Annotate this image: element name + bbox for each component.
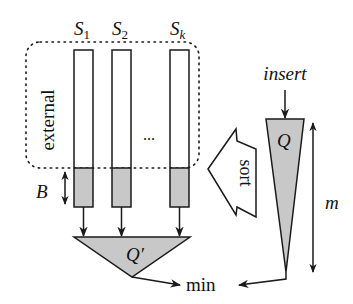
external-label: external (37, 89, 58, 150)
sequence-column-s2 (112, 50, 131, 207)
sequence-label-s1: S1 (74, 18, 90, 42)
arrow-merge-queue-to-min (132, 277, 180, 285)
ellipsis: ... (143, 126, 155, 143)
insert-queue-label: Q (277, 130, 291, 151)
sequence-column-s1 (74, 50, 93, 207)
merge-queue-label: Q′ (126, 244, 145, 265)
queue-size-label: m (325, 192, 339, 213)
block-size-label: B (36, 181, 48, 202)
arrow-insert-queue-to-min (239, 272, 286, 285)
sequence-label-sk: Sk (170, 18, 186, 42)
external-priority-queue-diagram: S1 S2 Sk ... external B Q′ min sort inse… (0, 0, 353, 304)
insert-label: insert (263, 63, 307, 84)
min-label: min (186, 274, 216, 295)
sequence-column-sk (170, 50, 189, 207)
sort-label: sort (236, 160, 256, 187)
sequence-label-s2: S2 (112, 18, 128, 42)
